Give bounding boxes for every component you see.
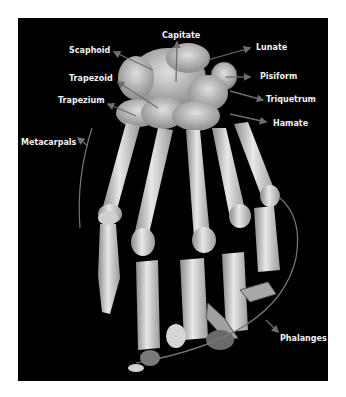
label-pisiform: Pisiform	[260, 72, 297, 81]
label-trapezoid: Trapezoid	[69, 74, 113, 83]
diagram-panel: Capitate Scaphoid Lunate Trapezoid Pisif…	[18, 18, 328, 381]
label-triquetrum: Triquetrum	[266, 95, 316, 104]
label-hamate: Hamate	[273, 119, 308, 128]
label-scaphoid: Scaphoid	[69, 46, 110, 55]
phalanx-bones	[98, 206, 280, 372]
metacarpals-bracket	[79, 128, 92, 228]
label-lunate: Lunate	[256, 43, 287, 52]
label-phalanges: Phalanges	[280, 334, 327, 343]
metacarpal-bones	[98, 122, 280, 256]
label-metacarpals: Metacarpals	[21, 138, 76, 147]
label-trapezium: Trapezium	[58, 96, 105, 105]
label-capitate: Capitate	[162, 31, 200, 40]
